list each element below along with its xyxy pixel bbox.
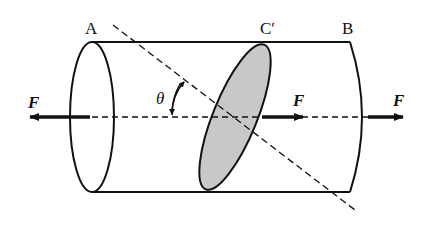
label-c-prime: C′ bbox=[260, 19, 275, 38]
label-b: B bbox=[342, 19, 353, 38]
diagram-canvas: A C′ B F F F θ bbox=[0, 0, 433, 225]
label-theta: θ bbox=[156, 89, 164, 108]
label-force-right: F bbox=[392, 91, 405, 110]
label-a: A bbox=[85, 19, 98, 38]
label-force-middle: F bbox=[292, 91, 305, 110]
label-force-left: F bbox=[27, 93, 40, 112]
